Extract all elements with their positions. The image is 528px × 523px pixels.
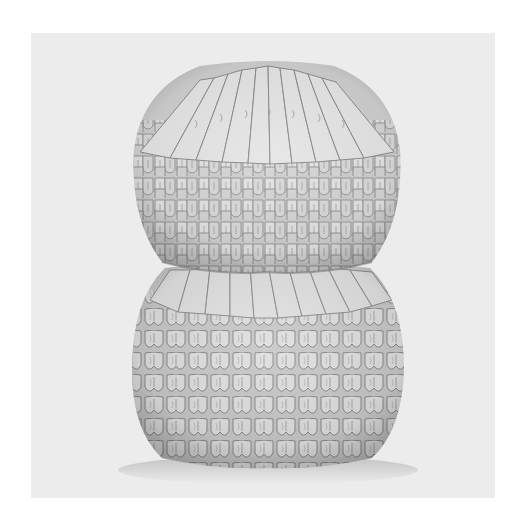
origami-sculpture (31, 33, 495, 498)
lower-tier (120, 255, 420, 485)
photo: Grayscale photograph of a white modular … (31, 33, 495, 498)
